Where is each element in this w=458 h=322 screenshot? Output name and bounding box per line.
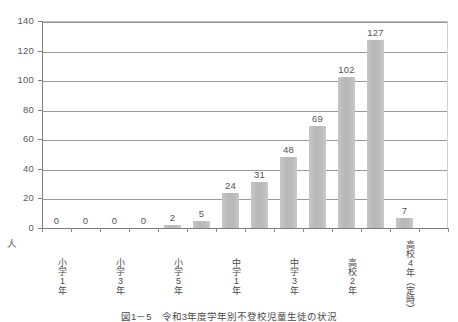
bar-value-label: 24 <box>216 181 246 191</box>
figure-caption: 図1－5 令和3年度学年別不登校児童生徒の状況 <box>0 311 458 322</box>
y-tick-label: 0 <box>0 223 34 233</box>
x-tick-mark <box>332 228 333 232</box>
bar <box>193 221 210 228</box>
bar <box>280 157 297 228</box>
x-tick-mark <box>71 228 72 232</box>
bar-value-label: 2 <box>158 213 188 223</box>
x-tick-label: 中学3年 <box>278 236 300 316</box>
bar-value-label: 5 <box>187 209 217 219</box>
y-tick-label: 60 <box>0 134 34 144</box>
bar-value-label: 102 <box>332 65 362 75</box>
y-tick-mark <box>38 139 42 140</box>
plot-area <box>42 21 448 228</box>
gridline <box>43 81 447 82</box>
gridline <box>43 199 447 200</box>
y-tick-mark <box>38 169 42 170</box>
bar <box>338 77 355 228</box>
bar-value-label: 0 <box>71 216 101 226</box>
y-tick-label: 140 <box>0 16 34 26</box>
y-tick-mark <box>38 80 42 81</box>
x-tick-label: 小学1年 <box>46 236 68 316</box>
x-tick-mark <box>129 228 130 232</box>
bar <box>251 182 268 228</box>
bar-value-label: 48 <box>274 145 304 155</box>
x-tick-mark <box>448 228 449 232</box>
y-tick-label: 120 <box>0 46 34 56</box>
x-tick-mark <box>419 228 420 232</box>
x-tick-label: 中学1年 <box>220 236 242 316</box>
bar <box>164 225 181 228</box>
bar-value-label: 0 <box>100 216 130 226</box>
y-tick-mark <box>38 21 42 22</box>
bar-value-label: 7 <box>390 206 420 216</box>
gridline <box>43 140 447 141</box>
x-tick-mark <box>216 228 217 232</box>
x-tick-mark <box>303 228 304 232</box>
bar <box>222 193 239 228</box>
bar-value-label: 127 <box>361 28 391 38</box>
y-tick-label: 100 <box>0 75 34 85</box>
x-tick-label: 高校2年 <box>336 236 358 316</box>
y-tick-label: 40 <box>0 164 34 174</box>
gridline <box>43 22 447 23</box>
gridline <box>43 52 447 53</box>
y-axis-unit-label: 人 <box>7 236 17 250</box>
gridline <box>43 111 447 112</box>
y-tick-mark <box>38 110 42 111</box>
bar-value-label: 0 <box>42 216 72 226</box>
bar-value-label: 69 <box>303 114 333 124</box>
x-tick-label: 小学3年 <box>104 236 126 316</box>
x-tick-mark <box>361 228 362 232</box>
bar-value-label: 31 <box>245 170 275 180</box>
y-tick-label: 80 <box>0 105 34 115</box>
x-tick-mark <box>245 228 246 232</box>
x-tick-label: 高校4年（定時） <box>394 236 416 316</box>
x-tick-mark <box>390 228 391 232</box>
y-tick-label: 20 <box>0 193 34 203</box>
x-tick-mark <box>158 228 159 232</box>
y-tick-mark <box>38 198 42 199</box>
bar <box>367 40 384 228</box>
x-tick-mark <box>42 228 43 232</box>
bar <box>396 218 413 228</box>
x-tick-mark <box>100 228 101 232</box>
y-tick-mark <box>38 51 42 52</box>
x-tick-label: 小学5年 <box>162 236 184 316</box>
x-tick-mark <box>187 228 188 232</box>
bar <box>309 126 326 228</box>
bar-value-label: 0 <box>129 216 159 226</box>
x-tick-mark <box>274 228 275 232</box>
